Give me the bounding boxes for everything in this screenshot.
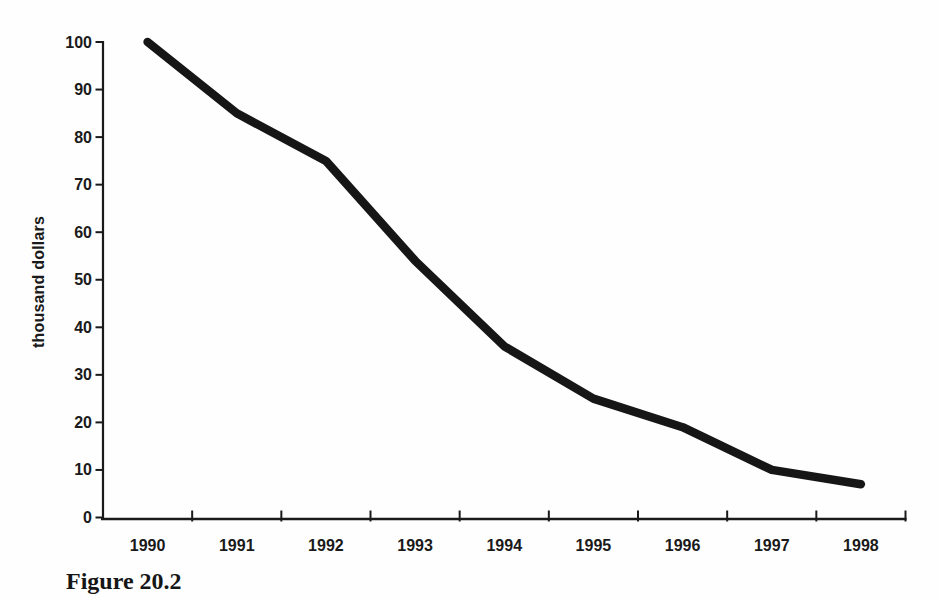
- y-tick-label: 90: [74, 81, 92, 98]
- y-tick-label: 100: [65, 34, 92, 51]
- figure-caption: Figure 20.2: [66, 568, 182, 595]
- tick-marks: [96, 42, 906, 522]
- series-line-thousand-dollars: [148, 42, 861, 484]
- data-series: [148, 42, 861, 484]
- x-tick-label: 1991: [219, 537, 255, 554]
- y-tick-label: 70: [74, 176, 92, 193]
- x-tick-label: 1996: [665, 537, 701, 554]
- y-tick-label: 20: [74, 414, 92, 431]
- y-tick-label: 60: [74, 224, 92, 241]
- y-tick-label: 30: [74, 366, 92, 383]
- axes: [101, 41, 907, 520]
- scanned-figure-page: 0102030405060708090100199019911992199319…: [0, 0, 939, 600]
- y-axis-title: thousand dollars: [30, 216, 47, 348]
- x-tick-label: 1990: [130, 537, 166, 554]
- y-tick-label: 40: [74, 319, 92, 336]
- y-tick-label: 0: [83, 509, 92, 526]
- x-tick-label: 1997: [754, 537, 790, 554]
- x-tick-label: 1993: [397, 537, 433, 554]
- x-tick-label: 1992: [308, 537, 344, 554]
- x-tick-label: 1995: [576, 537, 612, 554]
- y-tick-label: 80: [74, 129, 92, 146]
- x-tick-label: 1998: [843, 537, 879, 554]
- x-tick-label: 1994: [486, 537, 522, 554]
- y-tick-label: 50: [74, 271, 92, 288]
- y-tick-label: 10: [74, 461, 92, 478]
- line-chart: 0102030405060708090100199019911992199319…: [0, 0, 939, 600]
- tick-labels: 0102030405060708090100199019911992199319…: [65, 34, 879, 555]
